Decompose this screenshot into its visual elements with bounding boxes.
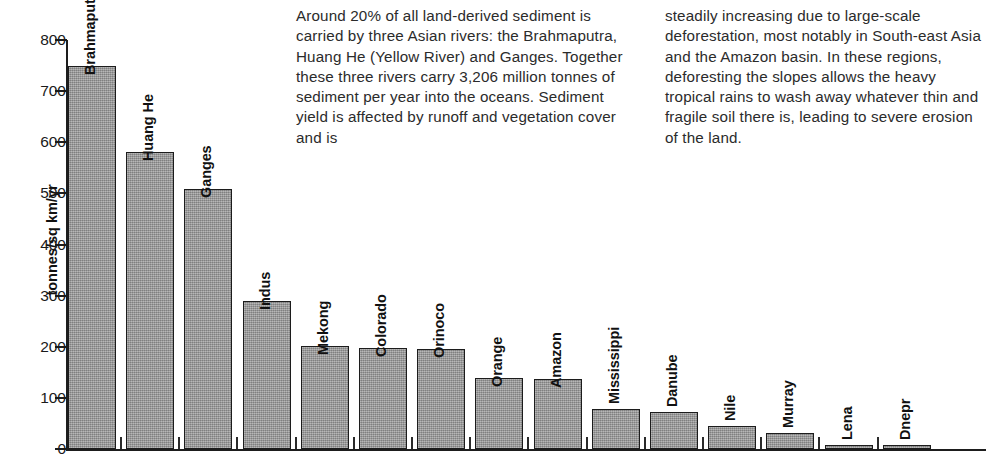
bar-label: Danube (664, 355, 680, 408)
bar-label: Mekong (315, 301, 331, 355)
bar-label: Orange (489, 337, 505, 387)
y-axis-tick-label: 0 (18, 440, 66, 456)
y-axis-tick-label: 100 (18, 389, 66, 407)
bar-label: Brahmaputra (82, 0, 98, 75)
x-axis-tick-mark (877, 437, 879, 449)
x-axis-tick-mark (178, 437, 180, 449)
x-axis-tick-mark (411, 437, 413, 449)
x-axis-tick-mark (469, 437, 471, 449)
bar: Brahmaputra (68, 66, 116, 449)
x-axis-tick-mark (760, 437, 762, 449)
bar: Dnepr (883, 445, 931, 449)
bar: Huang He (126, 152, 174, 449)
y-axis-tick-label: 800 (18, 31, 66, 49)
body-text-column-1: Around 20% of all land-derived sediment … (296, 6, 626, 148)
bar: Lena (825, 445, 873, 449)
bar: Colorado (359, 348, 407, 449)
y-axis-tick-label: 400 (18, 236, 66, 254)
y-axis-tick-label: 300 (18, 287, 66, 305)
bar-label: Indus (257, 272, 273, 310)
x-axis-tick-mark (353, 437, 355, 449)
x-axis-tick-mark (295, 437, 297, 449)
bar: Amazon (534, 379, 582, 449)
bar-label: Dnepr (897, 399, 913, 440)
bar: Murray (766, 433, 814, 449)
y-axis-tick-label: 500 (18, 184, 66, 202)
bar-label: Ganges (198, 146, 214, 199)
bar: Mississippi (592, 409, 640, 449)
bar-label: Mississippi (606, 327, 622, 404)
bar: Ganges (184, 189, 232, 449)
x-axis-line (66, 449, 986, 451)
bar-label: Amazon (548, 333, 564, 389)
x-axis-tick-mark (702, 437, 704, 449)
x-axis-tick-mark (527, 437, 529, 449)
bar: Orange (475, 378, 523, 449)
x-axis-tick-mark (818, 437, 820, 449)
x-axis-tick-mark (120, 437, 122, 449)
bar-label: Colorado (373, 294, 389, 357)
bar: Nile (708, 426, 756, 449)
bar-label: Orinoco (431, 303, 447, 358)
y-axis-tick-label: 600 (18, 133, 66, 151)
bar: Indus (243, 301, 291, 449)
bar: Mekong (301, 346, 349, 449)
x-axis-tick-mark (644, 437, 646, 449)
x-axis-tick-mark (586, 437, 588, 449)
x-axis-tick-mark (236, 437, 238, 449)
bar: Orinoco (417, 349, 465, 449)
bar-label: Nile (722, 395, 738, 421)
body-text-column-2: steadily increasing due to large-scale d… (665, 6, 985, 148)
bar-label: Huang He (140, 95, 156, 162)
bar-label: Murray (780, 380, 796, 428)
bar: Danube (650, 412, 698, 449)
y-axis-tick-label: 200 (18, 338, 66, 356)
bar-label: Lena (839, 407, 855, 440)
y-axis-tick-label: 700 (18, 82, 66, 100)
